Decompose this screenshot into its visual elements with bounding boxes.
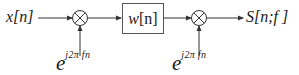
- window-index: [n]: [139, 10, 158, 28]
- modulator-2-label: ej2π fn: [172, 53, 206, 74]
- output-signal-label: S[n;f ]: [246, 9, 288, 25]
- multiplier-1-icon: [73, 11, 88, 26]
- modulator-2-exponent: j2π fn: [181, 49, 206, 60]
- input-signal-label: x[n]: [6, 9, 34, 25]
- modulator-1-base: e: [56, 51, 65, 75]
- modulator-2-base: e: [172, 51, 181, 75]
- multiplier-2-icon: [192, 11, 207, 26]
- modulator-1-exponent: j2π fn: [65, 49, 90, 60]
- modulator-1-label: ej2π fn: [56, 53, 90, 74]
- window-function-label: w[n]: [122, 3, 164, 34]
- window-var: w: [128, 10, 139, 28]
- stft-block-diagram: x[n] w[n] S[n;f ] ej2π fn ej2π fn: [0, 0, 299, 75]
